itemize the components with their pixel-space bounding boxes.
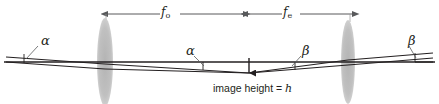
converging-ray-upper	[105, 64, 249, 73]
label-beta-internal: β	[302, 44, 310, 57]
label-objective-focal-length: fo	[161, 6, 170, 18]
objective-lens	[97, 18, 113, 104]
label-beta-exit: β	[408, 34, 416, 47]
leader-alpha-internal	[194, 56, 204, 66]
telescope-ray-diagram: fo fe α α β β image height = h	[0, 0, 439, 104]
fe-subscript: e	[287, 11, 292, 20]
converging-ray-lower	[105, 69, 249, 73]
image-height-caption-text: image height =	[213, 82, 285, 94]
label-alpha-incident: α	[41, 34, 50, 47]
label-alpha-internal: α	[186, 44, 195, 57]
image-height-symbol: h	[285, 82, 292, 95]
label-eyepiece-focal-length: fe	[283, 6, 292, 18]
leader-beta-internal	[292, 56, 301, 66]
image-height-caption: image height = h	[213, 83, 292, 94]
leader-alpha-incident	[26, 46, 38, 59]
fo-subscript: o	[165, 11, 170, 20]
